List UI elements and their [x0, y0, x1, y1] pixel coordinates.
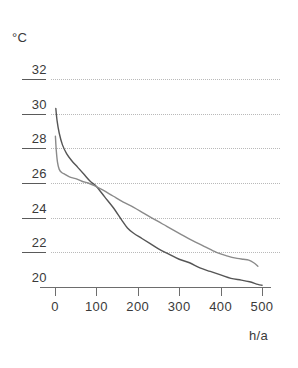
y-tick-label: 22	[21, 235, 47, 250]
y-tick-label: 30	[21, 97, 47, 112]
temperature-duration-chart: °C h/a 20222426283032 0100200300400500	[0, 0, 298, 368]
y-tick-mark	[22, 114, 46, 115]
y-tick-label: 28	[21, 131, 47, 146]
gridline	[51, 148, 280, 149]
x-tick-mark	[55, 288, 56, 296]
gridline	[51, 114, 280, 115]
gridline	[51, 252, 280, 253]
x-tick-label: 400	[201, 299, 241, 314]
data-line-curve-upper-start	[56, 108, 262, 285]
y-tick-label: 32	[21, 62, 47, 77]
y-tick-mark	[22, 218, 46, 219]
x-axis-baseline	[40, 287, 271, 288]
x-tick-mark	[179, 288, 180, 296]
x-tick-label: 300	[159, 299, 199, 314]
x-tick-mark	[96, 288, 97, 296]
y-axis-title: °C	[12, 30, 27, 45]
x-tick-mark	[138, 288, 139, 296]
x-tick-label: 100	[76, 299, 116, 314]
x-tick-label: 500	[242, 299, 282, 314]
x-tick-label: 200	[118, 299, 158, 314]
x-tick-mark	[221, 288, 222, 296]
y-tick-mark	[22, 252, 46, 253]
y-tick-mark	[22, 79, 46, 80]
gridline	[51, 183, 280, 184]
y-tick-mark	[22, 148, 46, 149]
y-tick-mark	[22, 183, 46, 184]
y-tick-label: 24	[21, 201, 47, 216]
y-tick-label: 20	[21, 270, 47, 285]
gridline	[51, 79, 280, 80]
gridline	[51, 218, 280, 219]
x-axis-title: h/a	[249, 328, 268, 343]
x-tick-label: 0	[35, 299, 75, 314]
y-tick-label: 26	[21, 166, 47, 181]
data-line-curve-lower-start	[55, 136, 257, 266]
x-tick-mark	[262, 288, 263, 296]
